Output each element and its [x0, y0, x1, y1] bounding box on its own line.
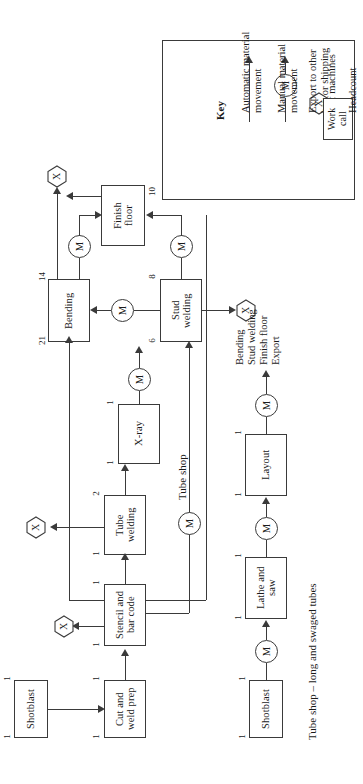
machines-stud-welding: 8: [148, 274, 157, 279]
arrowhead-cut-stencil: [121, 649, 129, 656]
machines-shotblast-bottom: 1: [238, 676, 247, 681]
export-x-glyph: X: [240, 307, 251, 314]
flow-tubeweld-export-a: [68, 527, 104, 528]
machines-stencil: 1: [92, 580, 101, 585]
rail-stencil-to-bending: [69, 342, 70, 600]
headcount-shotblast-1: 1: [3, 734, 12, 739]
flow-tubeweld-export-b: [56, 527, 68, 528]
flow-layout-m: [266, 417, 267, 434]
key-label-headcount: Headcount: [347, 0, 359, 113]
arrowhead-stud-export: [229, 306, 236, 314]
headcount-cut-weld: 1: [92, 734, 101, 739]
m-bending-finish: M: [68, 235, 91, 258]
headcount-tube-welding: 1: [92, 551, 101, 556]
rail-tubeshop-join: [146, 613, 189, 614]
machines-layout: 1: [234, 430, 243, 435]
headcount-lathe-saw: 1: [234, 615, 243, 620]
node-stencil-bar-code-2[interactable]: Stencil and bar code: [104, 584, 146, 646]
headcount-layout: 1: [234, 492, 243, 497]
flow-stud-up: [181, 258, 182, 279]
export-stencil[interactable]: X: [54, 615, 74, 638]
headcount-stencil: 1: [92, 642, 101, 647]
flow-stencil-to-tubeweld: [125, 559, 126, 584]
downstream-bending: Bending: [234, 329, 246, 365]
caption-tube-shop: Tube shop: [176, 454, 188, 500]
key-label-manual: Manual material movement: [276, 0, 300, 113]
flow-m-xray-up: [139, 352, 140, 368]
rail-tubeshop: [189, 347, 190, 613]
flow-xray-to-m: [139, 391, 140, 404]
flow-m-layout: [266, 503, 267, 517]
m-stud-bending: M: [111, 299, 134, 322]
node-stud-welding[interactable]: Stud welding: [160, 279, 202, 342]
flow-m-out: [266, 376, 267, 394]
machines-bending: 14: [38, 272, 47, 281]
arrowhead-tubeweld-to-xray: [121, 464, 129, 471]
arrowhead-rail-to-bending: [65, 336, 73, 343]
key-x-glyph: X: [313, 100, 324, 107]
node-cut-weld-prep-2[interactable]: Cut and weld prep: [104, 680, 146, 738]
key-label-machines: # of machines: [326, 0, 338, 113]
arrowhead-tubeshop-to-stud: [185, 341, 193, 348]
export-tube[interactable]: X: [26, 516, 46, 539]
node-lathe-saw[interactable]: Lathe and saw: [245, 557, 287, 619]
node-tube-welding[interactable]: Tube welding: [104, 495, 146, 555]
node-shotblast-top-2[interactable]: Shotblast: [14, 680, 48, 738]
arrowhead-to-finish-floor: [95, 211, 102, 219]
arrowhead-stencil-to-tubeweld: [121, 553, 129, 560]
machines-shotblast-1: 1: [3, 676, 12, 681]
arrowhead-shotblast-cut: [98, 705, 105, 713]
headcount-shotblast-bottom: 1: [238, 734, 247, 739]
downstream-finish-floor: Finish floor: [258, 316, 270, 365]
flow-m-bending-up: [79, 215, 80, 236]
node-xray[interactable]: X-ray: [118, 404, 160, 464]
node-bending[interactable]: Bending: [48, 279, 90, 342]
arrowhead-finish-floor-out: [66, 192, 73, 200]
flow-lathe-m: [266, 540, 267, 557]
node-shotblast-bottom[interactable]: Shotblast: [249, 680, 283, 738]
export-bending[interactable]: X: [47, 165, 67, 188]
arrowhead-m-layout: [262, 497, 270, 504]
flow-shotblast-m: [266, 663, 267, 680]
key-title: Key: [214, 101, 226, 120]
arrowhead-m-to-bending: [90, 306, 97, 314]
arrowhead-m-xray-up: [135, 346, 143, 353]
arrowhead-bending-export: [53, 187, 61, 194]
flow-shotblast-cut: [48, 709, 98, 710]
export-x-glyph: X: [51, 173, 62, 180]
flow-finish-floor-out: [72, 196, 101, 197]
m-stud-finish: M: [170, 235, 193, 258]
node-layout[interactable]: Layout: [245, 434, 287, 496]
flow-m-stud-up: [181, 215, 182, 236]
flow-m-bending-right: [79, 215, 95, 216]
arrowhead-m-lathe: [262, 620, 270, 627]
downstream-export: Export: [270, 336, 282, 365]
flow-m-stud-left: [152, 215, 181, 216]
flow-bending-up: [79, 258, 80, 279]
downstream-stud-welding: Stud welding: [246, 309, 258, 365]
export-x-glyph: X: [58, 623, 69, 630]
headcount-bending: 21: [38, 336, 47, 345]
export-x-glyph: X: [30, 524, 41, 531]
rail-finishfloor: [206, 215, 207, 600]
flow-m-to-bending: [97, 310, 111, 311]
machines-cut-weld: 1: [92, 676, 101, 681]
arrowhead-stud-to-finish: [146, 211, 153, 219]
m-layout-out: M: [255, 394, 278, 417]
arrowhead-m-out: [262, 370, 270, 377]
flow-bending-export: [57, 193, 58, 279]
headcount-xray: 1: [106, 460, 115, 465]
key-label-automatic: Automatic material movement: [240, 0, 264, 113]
flow-stud-to-m: [134, 310, 160, 311]
headcount-finish-floor: 10: [148, 187, 157, 196]
flow-cut-stencil: [125, 655, 126, 680]
flow-stencil-export: [78, 626, 104, 627]
rail-stencil-join: [69, 600, 104, 601]
m-lathe-layout: M: [255, 517, 278, 540]
flow-m-lathe: [266, 626, 267, 640]
machines-xray: 1: [106, 400, 115, 405]
headcount-stud-welding: 6: [148, 338, 157, 343]
m-shotblast-lathe: M: [255, 640, 278, 663]
node-finish-floor[interactable]: Finish floor: [101, 185, 145, 246]
machines-lathe-saw: 1: [234, 553, 243, 558]
